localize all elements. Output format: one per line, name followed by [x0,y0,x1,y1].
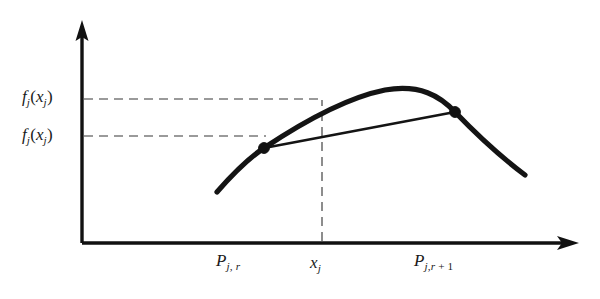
pjr-sub: j, r [226,260,240,272]
figure-container: fj(xj) fj(xj) Pj, r xj Pj,r + 1 [0,0,600,299]
pjr-base: P [216,251,226,270]
pjr1-sub: j,r [424,260,435,272]
x-label-x-j: xj [310,254,321,274]
x-label-p-j-r: Pj, r [216,252,240,272]
pjr1-sub-tail: + 1 [435,260,453,272]
xj-base: x [310,253,318,272]
fj-lower-close: ) [47,125,53,144]
fj-lower-arg: x [36,125,44,144]
node-p-j-r-plus-1 [450,107,461,118]
x-label-p-j-r-plus-1: Pj,r + 1 [414,252,453,272]
diagram-canvas [0,0,600,299]
function-curve [217,88,525,192]
y-label-fj-xj-lower: fj(xj) [22,126,53,146]
xj-sub: j [318,262,321,274]
node-p-j-r [259,143,270,154]
pjr1-base: P [414,251,424,270]
fj-upper-close: ) [47,87,53,106]
fj-upper-arg: x [36,87,44,106]
y-label-fj-xj-upper: fj(xj) [22,88,53,108]
